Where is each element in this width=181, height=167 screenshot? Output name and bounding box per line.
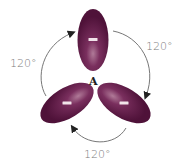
minus-icon [63, 102, 72, 105]
angle-label-left: 120° [10, 57, 37, 70]
lobe-bottom-right [91, 74, 158, 131]
minus-icon [120, 102, 129, 105]
central-atom-label: A [88, 75, 98, 88]
angle-label-right: 120° [146, 40, 173, 53]
bottom-angle-arc [73, 128, 126, 142]
minus-icon [89, 38, 98, 41]
angle-label-bottom: 120° [84, 148, 111, 161]
trigonal-planar-diagram: A 120° 120° 120° [0, 0, 181, 167]
lobe-top [78, 9, 109, 71]
